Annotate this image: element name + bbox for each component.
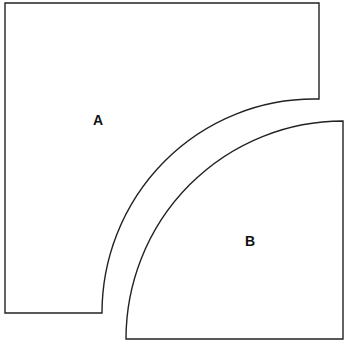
label-a: A [93, 112, 103, 128]
shape-a-outline [5, 3, 319, 313]
diagram-canvas: A B [0, 0, 346, 348]
label-b: B [245, 233, 255, 249]
shape-b-outline [126, 121, 343, 339]
